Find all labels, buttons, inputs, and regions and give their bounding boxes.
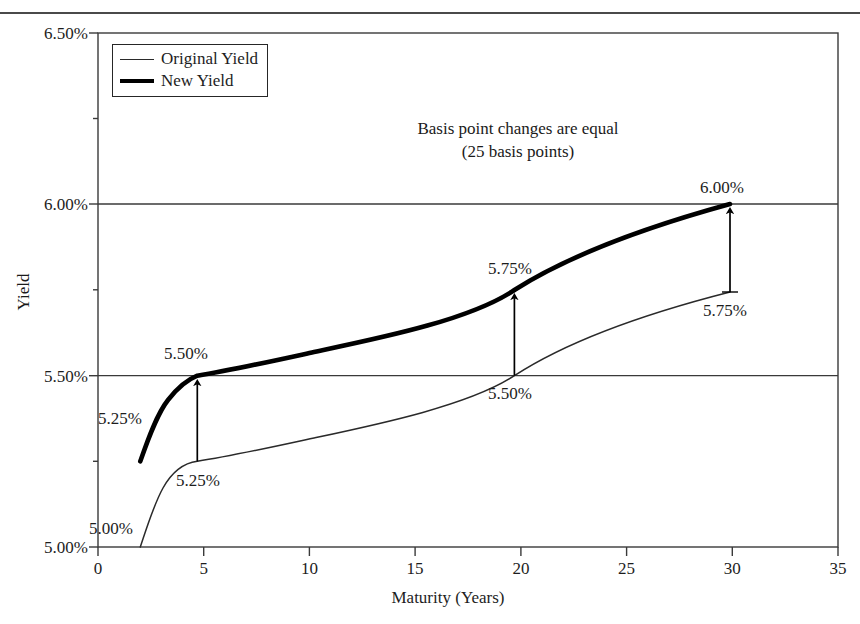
chart-page: 6.50% 6.00% 5.50% 5.00% Yield 0 5 10 15 … (0, 0, 860, 624)
xtick-label-35: 35 (818, 559, 858, 579)
datalabel-orig-5-75: 5.75% (703, 301, 747, 321)
xtick-label-10: 10 (289, 559, 329, 579)
legend-line-thick-icon (120, 79, 154, 83)
legend[interactable]: Original Yield New Yield (112, 44, 268, 97)
datalabel-new-5-75: 5.75% (488, 259, 532, 279)
y-tick-marks (89, 33, 98, 547)
plot-frame (98, 33, 838, 547)
datalabel-new-5-50: 5.50% (164, 344, 208, 364)
ytick-label-6-50: 6.50% (18, 24, 88, 44)
xtick-label-0: 0 (78, 559, 118, 579)
datalabel-orig-5-25: 5.25% (176, 471, 220, 491)
xtick-label-20: 20 (501, 559, 541, 579)
datalabel-new-6-00: 6.00% (700, 178, 744, 198)
legend-line-thin-icon (120, 59, 154, 60)
x-axis-title: Maturity (Years) (348, 588, 548, 608)
xtick-label-5: 5 (184, 559, 224, 579)
annotation-line-1: Basis point changes are equal (378, 117, 658, 140)
annotation-line-2: (25 basis points) (378, 140, 658, 163)
datalabel-orig-5-50: 5.50% (488, 384, 532, 404)
xtick-label-15: 15 (395, 559, 435, 579)
series-original-yield-line (140, 292, 730, 547)
ytick-label-6-00: 6.00% (18, 195, 88, 215)
datalabel-orig-5-00: 5.00% (89, 519, 133, 539)
xtick-label-30: 30 (712, 559, 752, 579)
legend-item-original-yield[interactable]: Original Yield (120, 48, 258, 70)
series-new-yield-line (140, 204, 730, 461)
ytick-label-5-50: 5.50% (18, 367, 88, 387)
legend-label-original-yield: Original Yield (161, 49, 258, 69)
y-axis-title: Yield (14, 262, 34, 322)
x-tick-marks (98, 547, 838, 556)
ytick-label-5-00: 5.00% (18, 538, 88, 558)
xtick-label-25: 25 (607, 559, 647, 579)
legend-label-new-yield: New Yield (161, 71, 234, 91)
datalabel-new-5-25: 5.25% (98, 409, 142, 429)
legend-item-new-yield[interactable]: New Yield (120, 70, 258, 92)
